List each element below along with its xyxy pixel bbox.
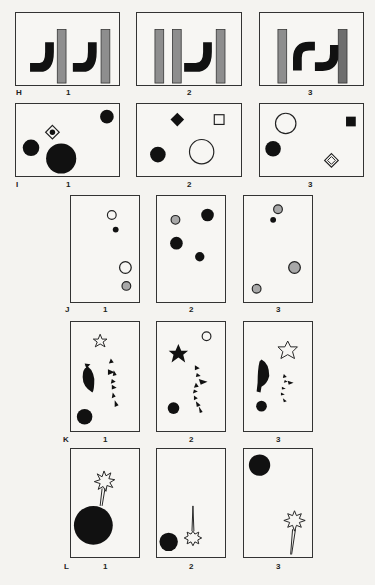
shapes-figure: [137, 104, 241, 176]
shapes-figure: [16, 104, 119, 176]
panel-h1: [15, 12, 120, 86]
row-letter-l: L: [64, 563, 69, 571]
panel-j1: [70, 195, 140, 303]
s-hooks-figure: [260, 13, 363, 85]
zigzag-chain: [108, 359, 119, 408]
panel-l2: [156, 448, 226, 558]
panel-h2: [136, 12, 242, 86]
zigzag-chain: [193, 365, 208, 413]
circles-figure: [244, 196, 312, 302]
panel-l3: [243, 448, 313, 558]
panel-k1: [70, 321, 140, 432]
bomb-figure: [71, 449, 139, 557]
shapes-figure: [260, 104, 363, 176]
panel-number-h1: 1: [66, 89, 70, 97]
panel-number-l1: 1: [103, 563, 107, 571]
spark-ball-figure: [157, 449, 225, 557]
row-letter-k: K: [63, 436, 69, 444]
panel-number-j2: 2: [189, 306, 193, 314]
panel-number-j1: 1: [103, 306, 107, 314]
circles-figure: [71, 196, 139, 302]
panel-number-i3: 3: [308, 181, 312, 189]
panel-number-l2: 2: [189, 563, 193, 571]
hook-bars-figure: [16, 13, 119, 85]
panel-number-k2: 2: [189, 436, 193, 444]
row-letter-i: I: [16, 181, 18, 189]
panel-j2: [156, 195, 226, 303]
panel-number-l3: 3: [276, 563, 280, 571]
panel-k3: [243, 321, 313, 432]
panel-i1: [15, 103, 120, 177]
panel-number-h3: 3: [308, 89, 312, 97]
panel-k2: [156, 321, 226, 432]
panel-number-k3: 3: [276, 436, 280, 444]
panel-i3: [259, 103, 364, 177]
row-letter-h: H: [16, 89, 22, 97]
hook-bars-figure: [137, 13, 241, 85]
spark-line-figure: [244, 449, 312, 557]
panel-l1: [70, 448, 140, 558]
panel-number-i1: 1: [66, 181, 70, 189]
panel-j3: [243, 195, 313, 303]
circles-figure: [157, 196, 225, 302]
panel-number-k1: 1: [103, 436, 107, 444]
panel-number-i2: 2: [187, 181, 191, 189]
panel-i2: [136, 103, 242, 177]
row-letter-j: J: [65, 306, 69, 314]
panel-number-h2: 2: [187, 89, 191, 97]
zigzag-chain: [281, 374, 294, 402]
panel-number-j3: 3: [276, 306, 280, 314]
star-zigzag-figure: [244, 322, 312, 431]
panel-h3: [259, 12, 364, 86]
star-zigzag-figure: [157, 322, 225, 431]
star-zigzag-figure: [71, 322, 139, 431]
